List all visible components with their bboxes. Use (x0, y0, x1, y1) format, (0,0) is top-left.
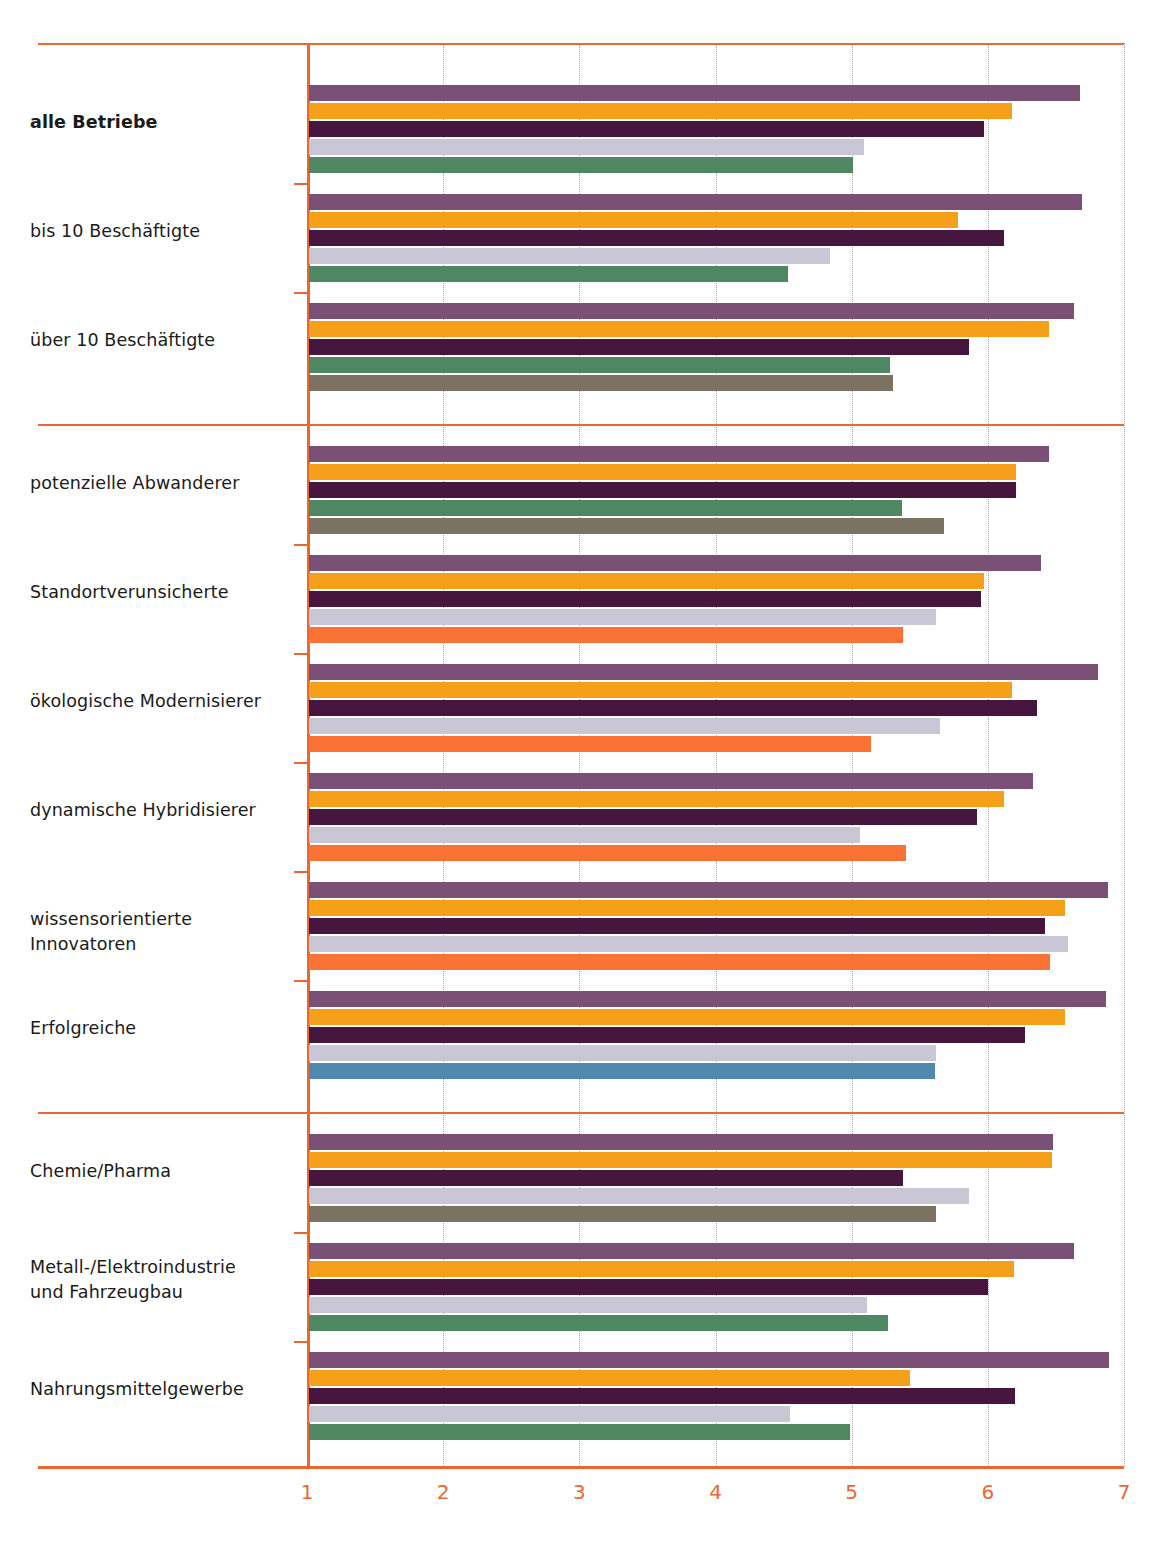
category-label-line: potenzielle Abwanderer (30, 471, 292, 496)
bar-dark-purple (309, 230, 1004, 246)
bar-orange (309, 212, 958, 228)
category-label-6: dynamische Hybridisierer (30, 798, 292, 823)
bar-dark-purple (309, 918, 1045, 934)
bar-light-lavender (309, 248, 830, 264)
category-label-0: alle Betriebe (30, 110, 292, 135)
category-label-11: Nahrungsmittelgewerbe (30, 1377, 292, 1402)
x-tick-label-1: 1 (287, 1480, 327, 1504)
bar-orange-red (309, 954, 1050, 970)
bar-light-lavender (309, 1045, 936, 1061)
category-label-5: ökologische Modernisierer (30, 689, 292, 714)
bar-purple (309, 991, 1106, 1007)
category-label-line: Standortverunsicherte (30, 580, 292, 605)
bar-orange (309, 103, 1012, 119)
x-tick-label-7: 7 (1104, 1480, 1144, 1504)
bar-chart: alle Betriebebis 10 Beschäftigteüber 10 … (0, 0, 1161, 1542)
category-label-2: über 10 Beschäftigte (30, 328, 292, 353)
category-label-line: alle Betriebe (30, 110, 292, 135)
bar-light-lavender (309, 827, 860, 843)
bar-green (309, 357, 890, 373)
category-label-line: und Fahrzeugbau (30, 1280, 292, 1305)
bar-dark-purple (309, 591, 981, 607)
category-label-7: wissensorientierte Innovatoren (30, 907, 292, 957)
gridline-7 (1124, 43, 1126, 1466)
bar-purple (309, 446, 1049, 462)
bar-purple (309, 85, 1080, 101)
bar-orange-red (309, 736, 871, 752)
bar-dark-purple (309, 482, 1016, 498)
bar-orange (309, 900, 1065, 916)
bar-light-lavender (309, 1188, 969, 1204)
bar-dark-purple (309, 339, 969, 355)
bar-purple (309, 1134, 1053, 1150)
bar-dark-purple (309, 809, 977, 825)
bar-green (309, 500, 902, 516)
x-tick-label-6: 6 (968, 1480, 1008, 1504)
bar-green (309, 266, 788, 282)
bar-dark-purple (309, 1170, 903, 1186)
bar-light-lavender (309, 1406, 790, 1422)
bar-purple (309, 1243, 1074, 1259)
bar-dark-purple (309, 700, 1037, 716)
bar-orange (309, 791, 1004, 807)
bar-orange (309, 573, 984, 589)
category-label-3: potenzielle Abwanderer (30, 471, 292, 496)
bar-purple (309, 773, 1033, 789)
bar-purple (309, 664, 1098, 680)
bar-dark-purple (309, 1279, 988, 1295)
category-label-4: Standortverunsicherte (30, 580, 292, 605)
section-rule-branchen (38, 1112, 1124, 1114)
category-label-10: Metall-/Elektroindustrieund Fahrzeugbau (30, 1255, 292, 1305)
bar-orange (309, 1152, 1052, 1168)
bar-dark-purple (309, 1027, 1025, 1043)
section-rule-betriebstypen (38, 424, 1124, 426)
bar-dark-purple (309, 121, 984, 137)
bar-light-lavender (309, 718, 940, 734)
bar-green (309, 1424, 850, 1440)
x-tick-label-4: 4 (696, 1480, 736, 1504)
bar-orange (309, 1261, 1014, 1277)
bar-purple (309, 194, 1082, 210)
bar-light-lavender (309, 936, 1068, 952)
category-label-line: Chemie/Pharma (30, 1159, 292, 1184)
bar-purple (309, 882, 1108, 898)
bar-purple (309, 1352, 1109, 1368)
bar-blue (309, 1063, 935, 1079)
bar-orange (309, 682, 1012, 698)
x-axis-line (38, 1466, 1124, 1469)
bar-orange (309, 1370, 910, 1386)
bar-light-lavender (309, 139, 864, 155)
bar-orange-red (309, 627, 903, 643)
category-label-line: wissensorientierte Innovatoren (30, 907, 292, 957)
bar-green (309, 157, 853, 173)
category-label-line: Nahrungsmittelgewerbe (30, 1377, 292, 1402)
x-tick-label-5: 5 (832, 1480, 872, 1504)
bar-purple (309, 555, 1041, 571)
bar-orange (309, 1009, 1065, 1025)
bar-light-lavender (309, 1297, 867, 1313)
bar-brown (309, 1206, 936, 1222)
category-label-1: bis 10 Beschäftigte (30, 219, 292, 244)
category-label-8: Erfolgreiche (30, 1016, 292, 1041)
category-label-line: Erfolgreiche (30, 1016, 292, 1041)
category-label-line: ökologische Modernisierer (30, 689, 292, 714)
x-tick-label-3: 3 (559, 1480, 599, 1504)
category-label-line: dynamische Hybridisierer (30, 798, 292, 823)
bar-brown (309, 375, 893, 391)
bar-orange (309, 321, 1049, 337)
bar-dark-purple (309, 1388, 1015, 1404)
bar-orange-red (309, 845, 906, 861)
category-label-line: bis 10 Beschäftigte (30, 219, 292, 244)
bar-brown (309, 518, 944, 534)
category-label-line: Metall-/Elektroindustrie (30, 1255, 292, 1280)
category-label-line: über 10 Beschäftigte (30, 328, 292, 353)
x-tick-label-2: 2 (423, 1480, 463, 1504)
bar-light-lavender (309, 609, 936, 625)
bar-green (309, 1315, 888, 1331)
bar-orange (309, 464, 1016, 480)
bar-purple (309, 303, 1074, 319)
category-label-9: Chemie/Pharma (30, 1159, 292, 1184)
